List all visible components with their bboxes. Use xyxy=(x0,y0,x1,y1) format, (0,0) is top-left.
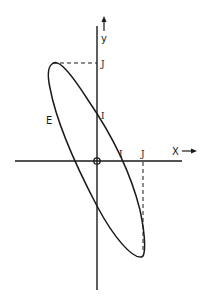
ellipse-diagram: y X J I I J E xyxy=(0,0,213,296)
y-max-label: J xyxy=(100,59,105,69)
y-arrow-icon xyxy=(102,16,107,31)
y-intercept-label: I xyxy=(101,111,105,121)
x-max-label: J xyxy=(140,149,145,159)
y-axis-label: y xyxy=(101,33,107,44)
curve-label: E xyxy=(46,115,52,126)
x-arrow-icon xyxy=(182,149,197,154)
x-intercept-label: I xyxy=(119,149,123,159)
x-axis-label: X xyxy=(172,146,179,157)
